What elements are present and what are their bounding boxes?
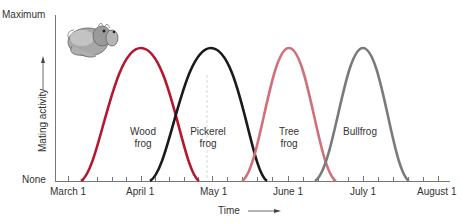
x-tick-label-march-1: March 1	[50, 186, 86, 197]
bullfrog-curve	[315, 48, 409, 181]
pickerel-frog-label: Pickerel frog	[186, 126, 230, 150]
y-axis-min-label: None	[22, 174, 46, 185]
x-tick-label-july-1: July 1	[350, 186, 376, 197]
y-axis-arrow-icon	[41, 56, 45, 63]
x-tick-label-april-1: April 1	[126, 186, 154, 197]
x-tick-label-may-1: May 1	[200, 186, 227, 197]
pickerel-frog-curve	[150, 48, 267, 181]
bullfrog-label: Bullfrog	[335, 126, 385, 138]
wood-frog-curve	[81, 48, 199, 181]
x-tick-label-august-1: August 1	[417, 186, 456, 197]
tree-frog-label: Tree frog	[274, 126, 304, 150]
y-axis-title: Mating activity	[37, 89, 48, 152]
x-tick-label-june-1: June 1	[273, 186, 303, 197]
x-axis-title: Time	[218, 205, 240, 216]
x-axis-ticks	[69, 176, 439, 181]
x-axis-arrow-icon	[274, 209, 281, 213]
y-axis-max-label: Maximum	[2, 9, 45, 20]
frog-pair-illustration	[68, 23, 118, 57]
wood-frog-label: Wood frog	[126, 126, 160, 150]
